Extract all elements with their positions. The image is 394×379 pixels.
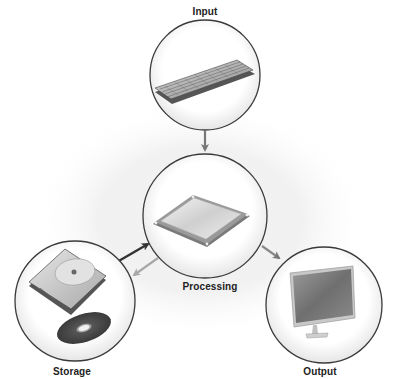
processing-label: Processing [183,281,238,292]
input-label: Input [193,6,218,17]
diagram-graphics [0,0,394,379]
processing-node [143,154,267,278]
computer-system-diagram: Input Processing Storage Output [0,0,394,379]
output-node [266,247,382,363]
input-node [150,20,260,130]
storage-node [15,241,135,361]
storage-label: Storage [53,366,91,377]
output-label: Output [303,366,336,377]
